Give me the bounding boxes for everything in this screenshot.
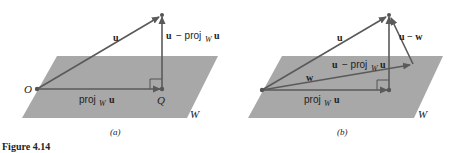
label-u-b: u xyxy=(337,32,343,43)
svg-text:u: u xyxy=(109,94,115,105)
panel-b: W u w proj W u u − proj W u u − w (b) xyxy=(248,13,443,137)
label-plane-w-b: W xyxy=(418,108,428,120)
point-apex-a xyxy=(160,13,164,17)
figure-label: Figure 4.14 xyxy=(2,141,50,152)
svg-text:− proj: − proj xyxy=(342,59,367,70)
plane-w-a xyxy=(22,56,218,118)
svg-text:u: u xyxy=(214,30,220,41)
point-origin-b xyxy=(260,88,264,92)
point-apex-b xyxy=(387,13,391,17)
caption-a: (a) xyxy=(110,127,121,137)
point-o xyxy=(35,87,39,91)
label-q: Q xyxy=(157,94,165,106)
label-u-a: u xyxy=(113,32,119,43)
svg-text:u: u xyxy=(332,59,338,70)
svg-text:u: u xyxy=(334,94,340,105)
svg-text:− proj: − proj xyxy=(176,30,201,41)
svg-text:proj: proj xyxy=(79,94,96,105)
svg-text:W: W xyxy=(205,35,213,44)
svg-text:u: u xyxy=(166,30,172,41)
svg-text:u: u xyxy=(380,59,386,70)
figure-canvas: O Q W u proj W u u − proj W u (a) xyxy=(0,0,464,153)
label-o: O xyxy=(24,83,32,95)
label-w: w xyxy=(306,72,314,83)
label-u-minus-w: u − w xyxy=(399,31,423,42)
label-u-minus-proj-a: u − proj W u xyxy=(166,30,220,44)
label-plane-w-a: W xyxy=(190,108,200,120)
point-q xyxy=(160,87,164,91)
svg-text:proj: proj xyxy=(304,94,321,105)
panel-a: O Q W u proj W u u − proj W u (a) xyxy=(22,13,220,137)
point-foot-b xyxy=(387,88,391,92)
caption-b: (b) xyxy=(337,127,348,137)
